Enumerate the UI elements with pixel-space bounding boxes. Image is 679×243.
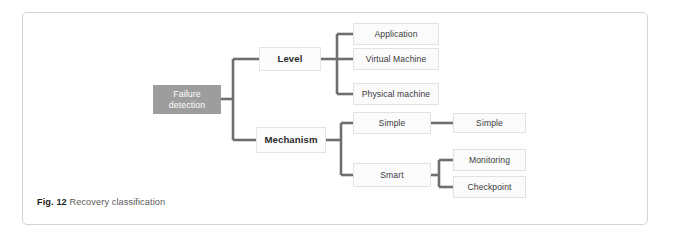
node-mechanism[interactable]: Mechanism: [256, 127, 326, 153]
node-smart[interactable]: Smart: [353, 163, 431, 187]
figure-number: Fig. 12: [37, 197, 67, 207]
node-physical-machine[interactable]: Physical machine: [353, 83, 439, 105]
node-checkpoint[interactable]: Checkpoint: [453, 176, 526, 198]
node-virtual-machine[interactable]: Virtual Machine: [353, 48, 439, 70]
figure-card: Failure detection Level Application Virt…: [22, 12, 648, 225]
figure-title: Recovery classification: [69, 197, 165, 207]
node-simple-leaf[interactable]: Simple: [453, 113, 526, 133]
connector-lines: [23, 13, 649, 193]
figure-caption: Fig. 12 Recovery classification: [37, 197, 165, 207]
node-monitoring[interactable]: Monitoring: [453, 149, 526, 171]
node-application[interactable]: Application: [353, 23, 439, 45]
recovery-classification-diagram: Failure detection Level Application Virt…: [23, 13, 649, 193]
node-simple[interactable]: Simple: [353, 112, 431, 134]
node-level[interactable]: Level: [259, 47, 321, 71]
node-failure-detection[interactable]: Failure detection: [153, 85, 221, 114]
